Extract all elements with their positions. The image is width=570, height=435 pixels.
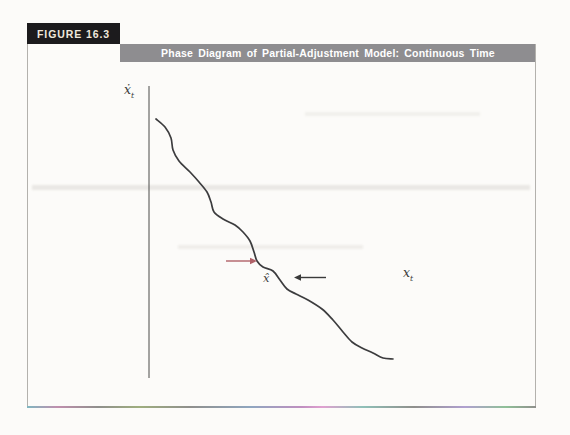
rightward-convergence-arrow (226, 258, 257, 264)
equilibrium-point-label: x̂ (263, 273, 270, 285)
y-axis-label-sub: t (131, 91, 134, 100)
x-axis-label: xt (403, 267, 413, 282)
x-axis-label-sub: t (410, 274, 413, 283)
phase-diagram-plot (0, 0, 570, 435)
leftward-convergence-arrow (294, 274, 326, 280)
textbook-figure-page: FIGURE 16.3 Phase Diagram of Partial-Adj… (0, 0, 570, 435)
phase-curve (156, 119, 393, 359)
x-axis-label-base: x (403, 265, 410, 280)
y-axis-label: ẋt (124, 84, 134, 99)
y-axis-label-base: ẋ (124, 82, 131, 97)
